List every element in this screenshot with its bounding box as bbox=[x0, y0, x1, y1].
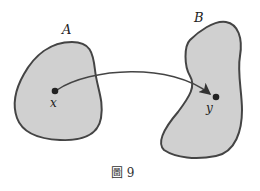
point-x bbox=[52, 88, 59, 95]
figure-caption: 圖 9 bbox=[111, 166, 134, 180]
point-y bbox=[213, 94, 220, 101]
set-a-label: A bbox=[61, 22, 71, 37]
point-x-label: x bbox=[50, 96, 57, 110]
point-y-label: y bbox=[205, 101, 213, 115]
set-b-label: B bbox=[193, 10, 204, 25]
mapping-diagram: A B x y 圖 9 bbox=[0, 0, 260, 191]
set-b-region bbox=[161, 22, 242, 158]
